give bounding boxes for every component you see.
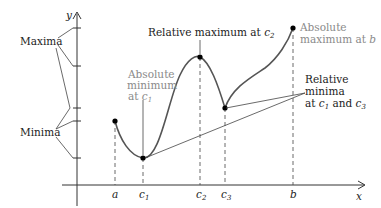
- svg-text:Absolute: Absolute: [299, 21, 347, 33]
- relative-min-label: Relative minima at c1 and c3: [305, 73, 367, 111]
- leader-lines-left: [56, 28, 73, 158]
- point-c1: [140, 155, 145, 160]
- point-b: [290, 25, 295, 30]
- svg-text:at c1 and c3: at c1 and c3: [305, 97, 367, 111]
- absolute-min-label: Absolute minimum at c1: [127, 68, 177, 104]
- tick-c1: c1: [139, 188, 149, 202]
- extrema-diagram: y x Maxima Minima a c1 c2 c3 b Relative …: [0, 0, 381, 208]
- tick-b: b: [290, 188, 297, 200]
- tick-c3: c3: [221, 188, 232, 202]
- minima-label: Minima: [20, 126, 60, 138]
- svg-text:at c1: at c1: [128, 90, 152, 104]
- relative-max-label: Relative maximum at c2: [148, 26, 275, 40]
- tick-a: a: [112, 188, 118, 200]
- svg-text:minima: minima: [305, 85, 345, 97]
- y-axis-label: y: [65, 9, 73, 21]
- x-tick-labels: a c1 c2 c3 b: [112, 188, 297, 202]
- x-axis-label: x: [356, 190, 362, 202]
- point-a: [112, 118, 117, 123]
- svg-text:maximum at b: maximum at b: [300, 33, 376, 45]
- svg-text:Relative: Relative: [305, 73, 348, 85]
- absolute-max-label: Absolute maximum at b: [299, 21, 376, 45]
- leader-lines-annotations: [143, 40, 305, 158]
- dashed-guides: [115, 28, 293, 185]
- maxima-label: Maxima: [20, 35, 63, 47]
- tick-c2: c2: [196, 188, 207, 202]
- point-c2: [197, 54, 202, 59]
